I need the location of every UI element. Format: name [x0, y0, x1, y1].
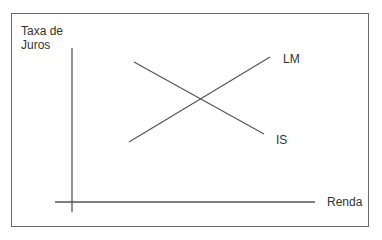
x-axis-label: Renda	[327, 195, 362, 209]
y-axis-label-line1: Taxa de	[21, 24, 63, 38]
y-axis-label-line2: Juros	[21, 38, 63, 52]
lm-curve	[129, 57, 270, 142]
lm-label: LM	[283, 52, 300, 66]
is-label: IS	[276, 133, 287, 147]
y-axis-label: Taxa de Juros	[21, 24, 63, 52]
